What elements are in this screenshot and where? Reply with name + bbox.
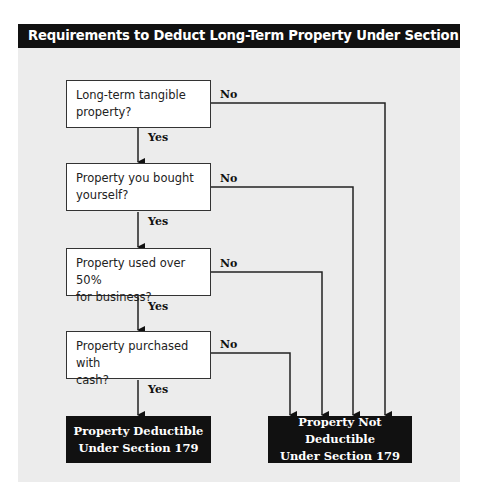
question-text: Property used over 50% — [76, 255, 202, 289]
question-text: cash? — [76, 372, 202, 389]
result-text: Under Section 179 — [268, 448, 412, 465]
no-label: No — [220, 172, 237, 185]
yes-label: Yes — [148, 383, 168, 396]
question-text: for business? — [76, 289, 202, 306]
question-text: property? — [76, 104, 202, 121]
question-text: Property you bought — [76, 170, 202, 187]
result-text: Property Not Deductible — [268, 414, 412, 448]
question-text: yourself? — [76, 187, 202, 204]
question-box-cash: Property purchased with cash? — [66, 331, 211, 379]
yes-label: Yes — [148, 300, 168, 313]
question-box-tangible: Long-term tangible property? — [66, 80, 211, 128]
yes-label: Yes — [148, 215, 168, 228]
question-box-bought-yourself: Property you bought yourself? — [66, 163, 211, 211]
no-label: No — [220, 338, 237, 351]
result-not-deductible: Property Not Deductible Under Section 17… — [268, 416, 412, 463]
yes-label: Yes — [148, 131, 168, 144]
result-text: Under Section 179 — [66, 440, 211, 457]
question-text: Property purchased with — [76, 338, 202, 372]
question-box-business-use: Property used over 50% for business? — [66, 248, 211, 296]
result-text: Property Deductible — [66, 423, 211, 440]
no-label: No — [220, 257, 237, 270]
result-deductible: Property Deductible Under Section 179 — [66, 416, 211, 463]
question-text: Long-term tangible — [76, 87, 202, 104]
no-label: No — [220, 88, 237, 101]
